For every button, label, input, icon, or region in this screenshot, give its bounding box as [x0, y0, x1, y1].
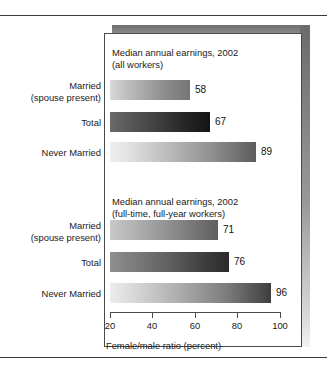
x-axis-label-60: 60	[190, 320, 200, 331]
x-axis-tick-80	[237, 312, 238, 318]
bar-value-never-married-group-1: 89	[261, 142, 272, 162]
x-axis-label-20: 20	[105, 320, 115, 331]
category-label-married-spouse-present-group-1: Married (spouse present)	[0, 80, 101, 103]
bar-value-total-group-2: 76	[234, 252, 245, 272]
bottom-divider-rule	[0, 357, 327, 358]
x-axis-label-40: 40	[147, 320, 157, 331]
bar-married-spouse-present-group-2	[110, 220, 218, 240]
category-label-never-married-group-1: Never Married	[0, 147, 101, 159]
bar-value-married-spouse-present-group-1: 58	[195, 80, 206, 100]
group-1-title: Median annual earnings, 2002 (all worker…	[112, 47, 238, 70]
bar-value-married-spouse-present-group-2: 71	[223, 220, 234, 240]
x-axis-tick-40	[152, 312, 153, 318]
x-axis-title: Female/male ratio (percent)	[0, 340, 327, 351]
category-label-married-spouse-present-group-2: Married (spouse present)	[0, 220, 101, 243]
bar-total-group-2	[110, 252, 229, 272]
x-axis-label-80: 80	[232, 320, 242, 331]
bar-never-married-group-2	[110, 283, 271, 303]
bar-value-never-married-group-2: 96	[276, 283, 287, 303]
bar-married-spouse-present-group-1	[110, 80, 190, 100]
category-label-total-group-1: Total	[0, 117, 101, 129]
x-axis-tick-100	[280, 312, 281, 318]
x-axis-tick-20	[110, 312, 111, 318]
x-axis-label-100: 100	[272, 320, 288, 331]
bar-value-total-group-1: 67	[215, 112, 226, 132]
group-2-title: Median annual earnings, 2002 (full-time,…	[112, 196, 238, 219]
category-label-never-married-group-2: Never Married	[0, 288, 101, 300]
category-label-total-group-2: Total	[0, 257, 101, 269]
top-divider-rule	[0, 15, 327, 16]
bar-never-married-group-1	[110, 142, 256, 162]
x-axis-tick-60	[195, 312, 196, 318]
bar-total-group-1	[110, 112, 210, 132]
